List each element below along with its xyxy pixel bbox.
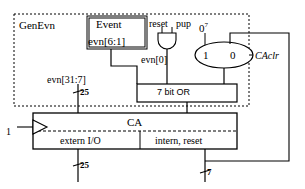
mux-input-one-label: 1: [203, 50, 209, 61]
seven-bit-or-label: 7 bit OR: [157, 88, 190, 97]
diagram-canvas: GenEvn Event evn[6:1] reset pup evn[0] 0…: [0, 0, 305, 189]
wire-evn61-to-or: [111, 49, 137, 84]
constant-zero-exponent: 7: [205, 21, 209, 29]
mux-input-zero-label: 0: [230, 50, 236, 61]
pup-signal-label: pup: [176, 19, 191, 29]
ca-block-title: CA: [127, 117, 142, 128]
event-output-bus-label: evn[6:1]: [88, 36, 125, 47]
ca-extern-io-label: extern I/O: [60, 136, 101, 146]
ca-intern-reset-label: intern, reset: [155, 136, 202, 146]
and-gate-reset-pup: [158, 33, 176, 49]
genevn-boundary-label: GenEvn: [19, 20, 55, 31]
evn0-signal-label: evn[0]: [141, 55, 167, 65]
caclr-select-label: CAclr: [255, 51, 279, 61]
event-block-title: Event: [96, 19, 122, 30]
clock-input-label: 1: [6, 127, 11, 137]
bus-width-25-top-label: 25: [80, 88, 89, 97]
reset-signal-label: reset: [149, 19, 168, 29]
evn317-bus-label: evn[31:7]: [47, 75, 86, 85]
bus-width-7-label: 7: [207, 168, 212, 177]
bus-width-25-bottom-label: 25: [80, 161, 89, 170]
constant-zero7-label: 07: [199, 22, 208, 34]
